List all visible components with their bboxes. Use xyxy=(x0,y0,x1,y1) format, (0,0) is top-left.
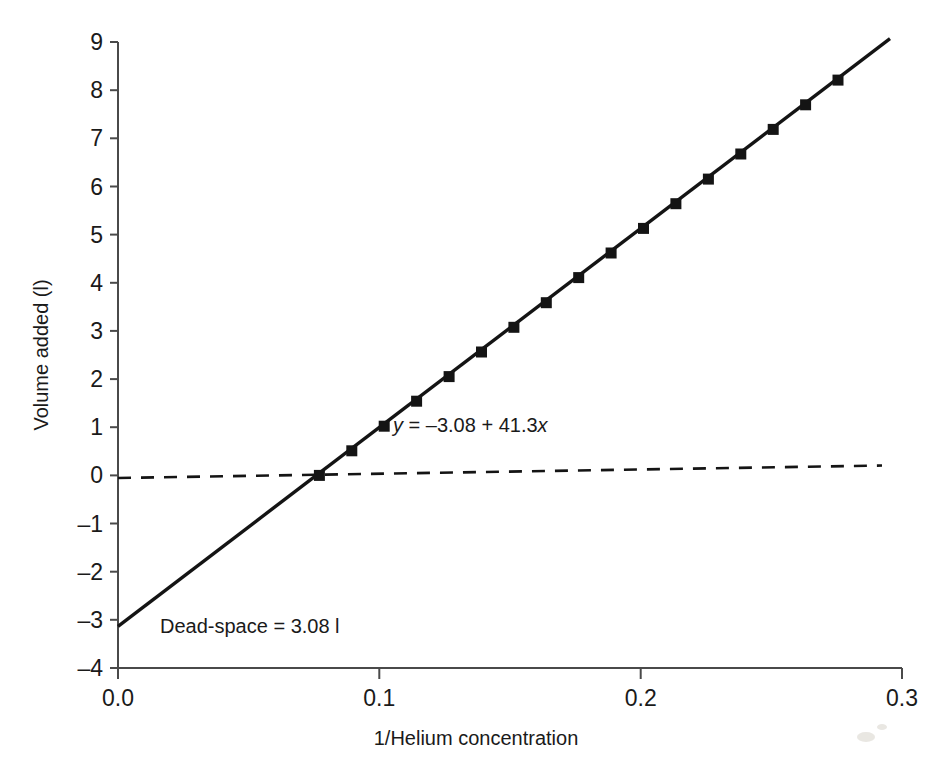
y-tick-label: 1 xyxy=(90,414,103,440)
dead-space-annotation: Dead-space = 3.08 l xyxy=(160,615,340,637)
y-axis-title: Volume added (l) xyxy=(30,279,52,430)
data-point-marker xyxy=(703,174,714,185)
data-point-marker xyxy=(411,396,422,407)
x-tick-label: 0.0 xyxy=(102,685,134,711)
scatter-regression-chart: 9 8 7 6 5 4 3 2 1 0 –1 –2 –3 –4 0.0 0.1 … xyxy=(0,0,932,767)
x-tick-label: 0.3 xyxy=(886,685,918,711)
data-point-marker xyxy=(800,99,811,110)
figure-container: 9 8 7 6 5 4 3 2 1 0 –1 –2 –3 –4 0.0 0.1 … xyxy=(0,0,932,767)
y-tick-label: 8 xyxy=(90,77,103,103)
y-tick-label: 7 xyxy=(90,125,103,151)
data-point-marker xyxy=(508,322,519,333)
data-point-marker xyxy=(670,198,681,209)
y-tick-label: 5 xyxy=(90,222,103,248)
data-point-marker xyxy=(573,272,584,283)
y-tick-label: 6 xyxy=(90,174,103,200)
y-tick-label: –3 xyxy=(77,607,103,633)
data-point-marker xyxy=(346,445,357,456)
y-tick-label: 4 xyxy=(90,270,103,296)
y-tick-label: 2 xyxy=(90,366,103,392)
x-tick-label: 0.1 xyxy=(363,685,395,711)
y-tick-label: –4 xyxy=(77,655,103,681)
data-point-marker xyxy=(606,248,617,259)
y-tick-label: 0 xyxy=(90,462,103,488)
y-tick-label: –2 xyxy=(77,559,103,585)
y-tick-label: –1 xyxy=(77,511,103,537)
x-axis-title: 1/Helium concentration xyxy=(374,727,579,749)
x-tick-label: 0.2 xyxy=(625,685,657,711)
y-tick-label: 3 xyxy=(90,318,103,344)
y-tick-label: 9 xyxy=(90,29,103,55)
equation-annotation: y = –3.08 + 41.3x xyxy=(391,414,549,436)
data-point-marker xyxy=(833,75,844,86)
data-point-marker xyxy=(735,149,746,160)
data-point-marker xyxy=(314,470,325,481)
data-point-marker xyxy=(379,421,390,432)
equation-x-symbol: x xyxy=(537,414,549,436)
data-point-marker xyxy=(476,347,487,358)
data-point-marker xyxy=(444,371,455,382)
data-point-marker xyxy=(638,223,649,234)
equation-body: = –3.08 + 41.3 xyxy=(403,414,538,436)
data-point-marker xyxy=(768,124,779,135)
data-point-marker xyxy=(541,297,552,308)
